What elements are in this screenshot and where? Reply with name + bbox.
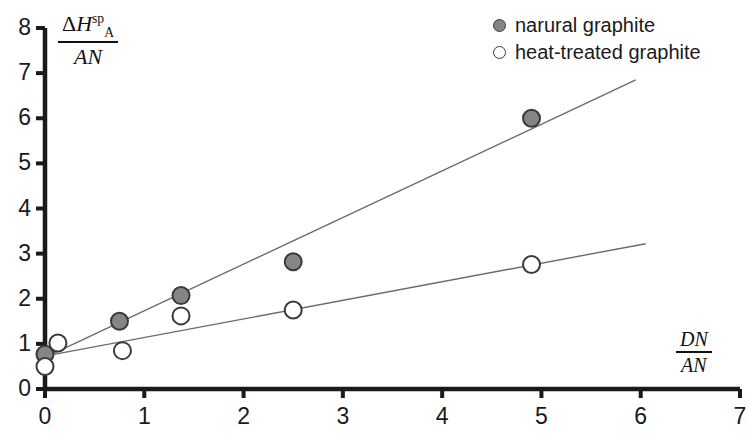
x-tick-label: 1 xyxy=(129,405,159,428)
y-tick-label: 5 xyxy=(5,151,31,174)
legend-label: narural graphite xyxy=(515,14,655,37)
x-tick-label: 2 xyxy=(229,405,259,428)
data-point-filled xyxy=(173,287,190,304)
y-tick-label: 0 xyxy=(5,377,31,400)
h-symbol: H xyxy=(76,11,92,36)
legend-item: narural graphite xyxy=(493,12,701,39)
trendline-heat-treated-graphite xyxy=(50,244,646,355)
y-tick-label: 7 xyxy=(5,61,31,84)
y-tick-label: 2 xyxy=(5,287,31,310)
x-tick-label: 0 xyxy=(30,405,60,428)
y-tick-label: 1 xyxy=(5,332,31,355)
trendline-narural-graphite xyxy=(50,80,636,355)
y-tick-label: 8 xyxy=(5,16,31,39)
y-tick-label: 4 xyxy=(5,197,31,220)
data-point-open xyxy=(173,307,190,324)
y-tick-label: 6 xyxy=(5,106,31,129)
data-point-filled xyxy=(111,313,128,330)
chart-container: 012345678 01234567 ΔHspA AN DN AN narura… xyxy=(0,0,748,441)
data-point-open xyxy=(49,334,66,351)
legend-marker-open-icon xyxy=(493,46,506,59)
data-point-open xyxy=(285,302,302,319)
x-tick-label: 5 xyxy=(526,405,556,428)
data-point-filled xyxy=(285,253,302,270)
chart-legend: narural graphiteheat-treated graphite xyxy=(493,12,701,66)
x-tick-label: 7 xyxy=(725,405,748,428)
y-axis-title: ΔHspA AN xyxy=(58,12,118,68)
y-tick-label: 3 xyxy=(5,242,31,265)
y-denominator: AN xyxy=(58,43,118,68)
x-tick-label: 3 xyxy=(328,405,358,428)
x-tick-label: 6 xyxy=(626,405,656,428)
data-point-open xyxy=(523,256,540,273)
x-axis-title: DN AN xyxy=(676,329,712,376)
x-numerator: DN xyxy=(676,329,712,353)
x-denominator: AN xyxy=(676,353,712,376)
legend-item: heat-treated graphite xyxy=(493,39,701,66)
legend-label: heat-treated graphite xyxy=(515,41,701,64)
x-tick-label: 4 xyxy=(427,405,457,428)
superscript-sp: sp xyxy=(92,11,104,26)
subscript-a: A xyxy=(104,25,114,40)
data-point-filled xyxy=(523,110,540,127)
data-point-open xyxy=(37,358,54,375)
delta-symbol: Δ xyxy=(62,11,76,36)
data-point-open xyxy=(114,342,131,359)
legend-marker-filled-icon xyxy=(493,19,506,32)
